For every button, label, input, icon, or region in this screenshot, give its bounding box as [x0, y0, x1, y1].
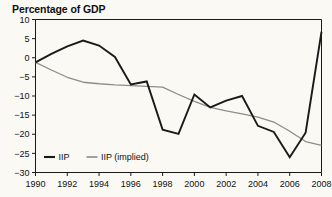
y-tick-label: 0 — [24, 53, 29, 63]
x-tick-label: 2004 — [248, 179, 268, 189]
x-tick-label: 1996 — [121, 179, 141, 189]
x-tick-label: 2000 — [184, 179, 204, 189]
x-tick-label: 1994 — [89, 179, 109, 189]
chart-legend: IIPIIP (implied) — [44, 152, 149, 162]
x-tick-label: 1992 — [57, 179, 77, 189]
x-axis-tick-labels: 1990199219941996199820002002200420062008 — [25, 179, 331, 189]
chart-plot-area: 1050−5−10−15−20−25−30 199019921994199619… — [0, 0, 332, 197]
y-tick-label: 5 — [24, 34, 29, 44]
y-tick-label: −20 — [14, 129, 29, 139]
y-tick-label: −30 — [14, 168, 29, 178]
chart-container: Percentage of GDP 1050−5−10−15−20−25−30 … — [0, 0, 332, 197]
y-axis-ticks — [32, 20, 36, 173]
y-tick-label: −15 — [14, 110, 29, 120]
y-tick-label: −25 — [14, 149, 29, 159]
x-tick-label: 2006 — [280, 179, 300, 189]
x-tick-label: 2008 — [311, 179, 331, 189]
y-tick-label: −5 — [19, 72, 29, 82]
y-axis-tick-labels: 1050−5−10−15−20−25−30 — [14, 15, 29, 178]
y-tick-label: −10 — [14, 91, 29, 101]
x-tick-label: 1990 — [25, 179, 45, 189]
x-tick-label: 2002 — [216, 179, 236, 189]
x-tick-label: 1998 — [153, 179, 173, 189]
data-series-layer — [36, 32, 322, 157]
legend-label-1: IIP — [59, 152, 70, 162]
x-axis-ticks — [36, 173, 322, 177]
legend-label-2: IIP (implied) — [101, 152, 149, 162]
y-tick-label: 10 — [19, 15, 29, 25]
